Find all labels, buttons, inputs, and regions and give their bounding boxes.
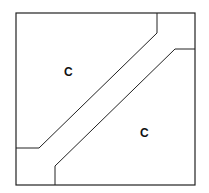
region-label-lower-right: C — [140, 126, 149, 140]
lower-boundary-line — [55, 49, 195, 185]
upper-boundary-line — [16, 13, 157, 148]
region-label-upper-left: C — [64, 65, 73, 79]
diagram-canvas: C C — [0, 0, 209, 193]
outer-frame — [16, 13, 195, 185]
